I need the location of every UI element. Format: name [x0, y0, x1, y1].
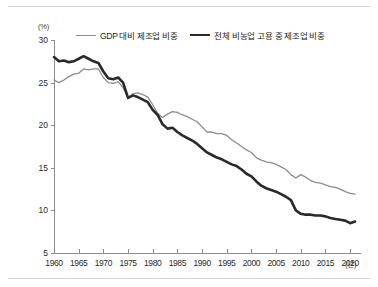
chart-series-layer: [0, 0, 378, 287]
series-line: [54, 69, 355, 194]
chart-figure: (%) (년) GDP 대비 제조업 비중전체 비농업 고용 중 제조업 비중 …: [0, 0, 378, 287]
series-line: [54, 56, 355, 223]
